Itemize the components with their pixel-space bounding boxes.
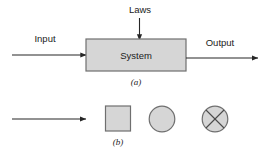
laws-label: Laws: [129, 4, 151, 15]
caption-a: (a): [131, 77, 142, 87]
legend-square-symbol: [106, 106, 131, 131]
system-block-diagram: Laws Input System Output (a) (b): [0, 0, 266, 154]
input-label: Input: [34, 33, 55, 44]
system-block-label: System: [120, 50, 152, 61]
figure-container: Laws Input System Output (a) (b): [0, 0, 266, 154]
output-label: Output: [206, 37, 235, 48]
caption-b: (b): [113, 137, 124, 147]
legend-circle-symbol: [149, 106, 175, 132]
